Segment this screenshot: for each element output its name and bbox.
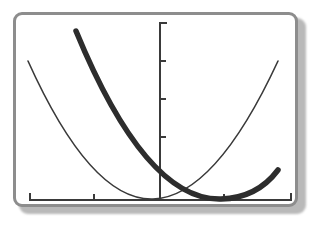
parabola-graph-svg <box>16 15 295 204</box>
calculator-screen-bezel <box>13 12 298 207</box>
thin-parabola-curve <box>28 61 278 199</box>
graph-plot-area <box>16 15 295 204</box>
calculator-screenshot <box>0 0 315 226</box>
thick-parabola-curve <box>76 31 278 199</box>
